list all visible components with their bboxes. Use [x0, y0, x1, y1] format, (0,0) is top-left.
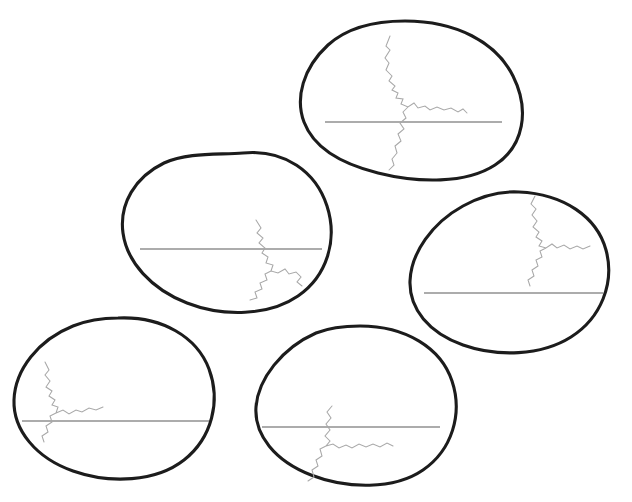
egg-shell-outline-bottom-left: [14, 318, 214, 479]
eggs-figure-canvas: [0, 0, 632, 502]
egg-group-bottom-left[interactable]: [14, 318, 214, 479]
